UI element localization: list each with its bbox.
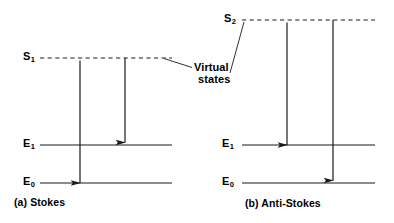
leader-line-to-s2 — [230, 22, 244, 73]
level-label-e1: E1 — [23, 138, 35, 149]
virtual-states-line-1: Virtual — [194, 61, 229, 73]
level-label-s1: S1 — [23, 51, 35, 62]
level-label-s2: S2 — [224, 13, 236, 24]
raman-energy-level-figure: S1 E1 E0 (a) Stokes S2 E1 E0 (b) Anti-St… — [0, 0, 394, 223]
virtual-states-line-2: states — [194, 73, 230, 85]
panel-anti-stokes — [242, 20, 375, 183]
level-label-e1: E1 — [222, 138, 234, 149]
panel-caption-anti-stokes: (b) Anti-Stokes — [245, 198, 321, 209]
diagram-canvas — [0, 0, 394, 223]
panel-stokes — [40, 58, 172, 183]
virtual-states-annotation: Virtual states — [194, 61, 230, 85]
leader-line-to-s1 — [164, 59, 192, 68]
level-label-e0: E0 — [222, 176, 234, 187]
level-label-e0: E0 — [23, 176, 35, 187]
panel-caption-stokes: (a) Stokes — [14, 197, 65, 208]
